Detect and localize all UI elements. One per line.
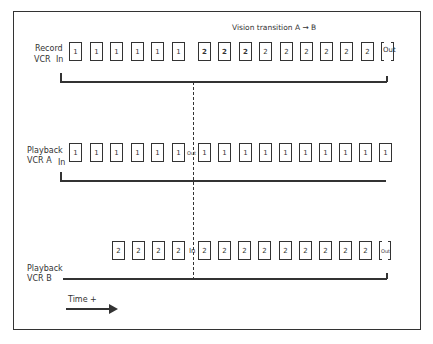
playback-b-label-line1: Playback [27,264,63,274]
playback-a-frame: 1 [131,143,144,162]
playback-b-frame: 2 [299,241,312,260]
record-frame: 1 [69,42,82,61]
right-arrow-icon [66,304,118,314]
playback-a-frame: 1 [319,143,332,162]
bracket-tick [391,60,394,61]
bracket-tick [388,241,391,242]
record-frame: 1 [131,42,144,61]
record-frame: 2 [259,42,272,61]
playback-a-frame: 1 [172,143,185,162]
record-transition-frame: 2 [198,42,211,61]
playback-b-frame: 2 [218,241,231,260]
record-vcr-in-label: In [56,55,63,65]
playback-b-frame: 2 [152,241,165,260]
playback-b-frame: 2 [258,241,271,260]
playback-a-timeline [60,180,386,182]
bracket-tick [381,60,384,61]
playback-a-in-label: In [58,158,65,168]
playback-b-line-end-tick [386,273,388,279]
playback-a-frame: 1 [151,143,164,162]
playback-a-frame: 1 [379,143,392,162]
bracket-tick [379,241,382,242]
record-out-label: Out [383,46,396,54]
bracket-tick [379,259,382,260]
playback-a-frame: 1 [218,143,231,162]
record-frame: 2 [300,42,313,61]
playback-a-frame: 1 [239,143,252,162]
record-transition-frame: 2 [218,42,231,61]
playback-a-frame: 1 [359,143,372,162]
record-line-end-tick [386,76,388,82]
playback-b-frame: 2 [359,241,372,260]
diagram-title: Vision transition A → B [232,23,316,32]
bracket-tick [381,42,384,43]
playback-a-frame: 1 [339,143,352,162]
record-timeline [60,81,387,83]
playback-b-frame: 2 [238,241,251,260]
playback-b-frame: 2 [132,241,145,260]
playback-b-out-label: Out [381,248,390,254]
playback-a-frame: 1 [279,143,292,162]
playback-a-label-line2: VCR A [27,156,52,166]
record-transition-frame: 2 [239,42,252,61]
playback-b-frame: 2 [172,241,185,260]
playback-a-frame: 1 [110,143,123,162]
playback-b-timeline [63,278,387,280]
playback-b-frame: 2 [279,241,292,260]
record-frame: 1 [110,42,123,61]
bracket-tick [388,259,391,260]
record-frame: 1 [172,42,185,61]
playback-b-label-line2: VCR B [27,274,52,284]
playback-b-frame: 2 [339,241,352,260]
playback-a-out-label: Out [187,150,196,156]
playback-b-frame: 2 [198,241,211,260]
bracket-tick [391,42,394,43]
record-frame: 2 [280,42,293,61]
transition-dashed-line [193,82,194,280]
playback-a-frame: 1 [69,143,82,162]
playback-a-label-line1: Playback [27,146,63,156]
record-frame: 2 [361,42,374,61]
record-vcr-label-line1: Record [35,44,63,54]
record-frame: 2 [320,42,333,61]
playback-a-frame: 1 [259,143,272,162]
playback-a-frame: 1 [299,143,312,162]
record-frame: 1 [151,42,164,61]
playback-b-frame: 2 [112,241,125,260]
record-frame: 1 [90,42,103,61]
record-vcr-label-line2: VCR [34,55,51,65]
playback-b-frame: 2 [319,241,332,260]
playback-a-frame: 1 [198,143,211,162]
record-frame: 2 [340,42,353,61]
playback-a-frame: 1 [90,143,103,162]
